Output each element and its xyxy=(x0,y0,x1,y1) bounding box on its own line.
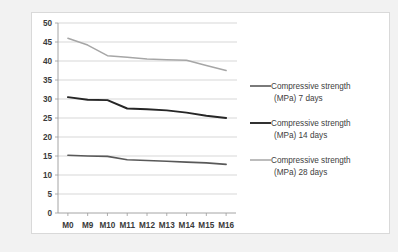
y-tick-label: 20 xyxy=(43,133,53,142)
chart-plot-area: 05101520253035404550 M0M9M10M11M12M13M14… xyxy=(32,13,391,235)
legend-label-0-line2: (MPa) 7 days xyxy=(274,94,323,103)
y-tick-label: 35 xyxy=(43,76,53,85)
series-line-2 xyxy=(68,38,226,70)
x-tick-label: M16 xyxy=(218,221,234,230)
series-group xyxy=(68,38,226,164)
x-tick-label: M14 xyxy=(179,221,195,230)
y-tick-label: 0 xyxy=(47,209,52,218)
x-tick-label: M0 xyxy=(62,221,74,230)
line-chart-svg: 05101520253035404550 M0M9M10M11M12M13M14… xyxy=(32,13,391,235)
x-tick-label: M12 xyxy=(139,221,155,230)
y-tick-label: 25 xyxy=(43,114,53,123)
legend-label-2-line1: Compressive strength xyxy=(271,156,351,165)
y-tick-label: 5 xyxy=(47,190,52,199)
y-tick-label: 40 xyxy=(43,57,53,66)
x-tick-label: M11 xyxy=(119,221,135,230)
y-tick-label: 15 xyxy=(43,152,53,161)
x-tick-label: M13 xyxy=(159,221,175,230)
legend-label-0-line1: Compressive strength xyxy=(271,82,351,91)
x-axis-tick-labels: M0M9M10M11M12M13M14M15M16 xyxy=(62,221,234,230)
legend-label-1-line2: (MPa) 14 days xyxy=(274,131,327,140)
y-tick-label: 45 xyxy=(43,38,53,47)
y-tick-label: 10 xyxy=(43,171,53,180)
x-tick-label: M15 xyxy=(198,221,214,230)
series-line-1 xyxy=(68,97,226,118)
y-tick-label: 30 xyxy=(43,95,53,104)
y-tick-label: 50 xyxy=(43,19,53,28)
chart-panel: 05101520253035404550 M0M9M10M11M12M13M14… xyxy=(31,12,390,234)
legend-label-1-line1: Compressive strength xyxy=(271,119,351,128)
legend: Compressive strength(MPa) 7 daysCompress… xyxy=(250,82,351,177)
legend-label-2-line2: (MPa) 28 days xyxy=(274,168,327,177)
x-tick-label: M10 xyxy=(99,221,115,230)
y-axis-tick-labels: 05101520253035404550 xyxy=(43,19,53,218)
x-tick-label: M9 xyxy=(82,221,94,230)
series-line-0 xyxy=(68,155,226,164)
